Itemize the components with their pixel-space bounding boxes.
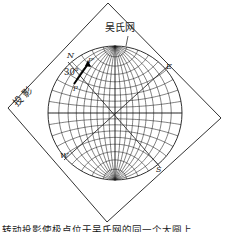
wulff-net-diagram — [0, 0, 225, 232]
north-label: N — [67, 52, 74, 60]
caption: 转动投影使极点位于吴氏网的同一个大圆上 — [2, 222, 192, 232]
p-prime-label: P' — [88, 58, 95, 65]
projection-frame — [8, 3, 221, 222]
south-label: S — [156, 166, 161, 174]
angle-label: 30° — [64, 68, 79, 77]
p-label: P — [73, 86, 78, 93]
wulff-net-label: 吴氏网 — [105, 23, 135, 33]
title-leader — [126, 36, 128, 46]
east-label: E — [166, 63, 172, 71]
west-label: W — [60, 152, 68, 160]
